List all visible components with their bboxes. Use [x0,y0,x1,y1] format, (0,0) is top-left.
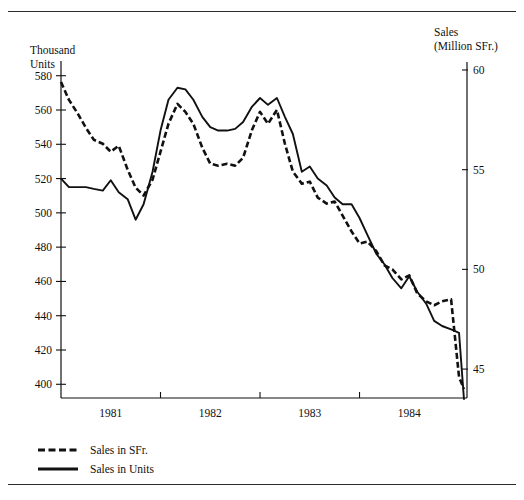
left-axis-tick-label: 460 [35,275,53,287]
left-axis-tick-label: 540 [35,138,53,150]
legend-swatch-dashed [38,445,78,455]
x-axis-year-label: 1981 [99,407,122,419]
left-axis-tick-label: 440 [35,310,53,322]
x-axis-year-label: 1982 [199,407,222,419]
left-axis-tick-label: 560 [35,104,53,116]
left-axis-tick-label: 520 [35,173,53,185]
x-axis-year-label: 1983 [298,407,321,419]
left-axis-tick-label: 400 [35,378,53,390]
right-axis-tick-label: 50 [473,263,485,275]
legend-label-sfr: Sales in SFr. [90,444,148,456]
left-axis-tick-label: 580 [35,70,53,82]
axes-group: 4004204404604805005205405605804550556019… [35,61,485,419]
x-axis-year-label: 1984 [398,407,421,419]
series-line-sales-sfr [61,82,464,389]
chart-legend: Sales in SFr. Sales in Units [38,440,298,478]
series-group [61,82,464,400]
chart-plot-area: 4004204404604805005205405605804550556019… [0,0,524,500]
right-axis-tick-label: 45 [473,363,485,375]
left-axis-tick-label: 420 [35,344,53,356]
legend-label-units: Sales in Units [90,463,154,475]
legend-item-sfr: Sales in SFr. [38,440,298,459]
right-axis-tick-label: 60 [473,64,485,76]
right-axis-tick-label: 55 [473,164,485,176]
left-axis-tick-label: 480 [35,241,53,253]
legend-item-units: Sales in Units [38,459,298,478]
series-line-sales-units [61,88,464,400]
left-axis-tick-label: 500 [35,207,53,219]
legend-swatch-solid [38,464,78,474]
chart-page: Thousand Units Sales (Million SFr.) 4004… [0,0,524,500]
